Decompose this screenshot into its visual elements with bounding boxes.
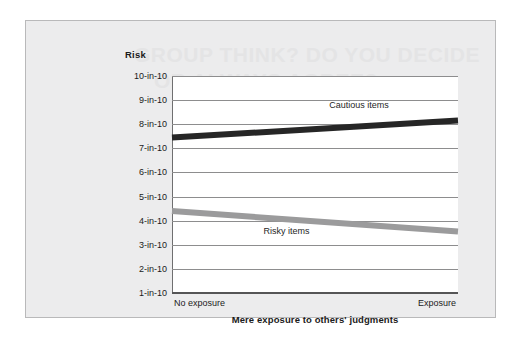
y-tick-label-3-in-10: 3-in-10 <box>139 240 167 250</box>
y-tick-label-4-in-10: 4-in-10 <box>139 216 167 226</box>
series-line-cautious-items <box>172 121 458 138</box>
y-tick-label-5-in-10: 5-in-10 <box>139 192 167 202</box>
y-tick-label-10-in-10: 10-in-10 <box>134 71 167 81</box>
series-label-cautious-items: Cautious items <box>329 100 389 110</box>
series-label-risky-items: Risky items <box>264 226 310 236</box>
chart-panel: GROUP THINK? DO YOU DECIDE OR ALWAYS AGR… <box>25 20 496 318</box>
plot-area: 1-in-102-in-103-in-104-in-105-in-106-in-… <box>172 76 458 293</box>
series-line-risky-items <box>172 211 458 231</box>
y-tick-label-7-in-10: 7-in-10 <box>139 143 167 153</box>
y-tick-label-1-in-10: 1-in-10 <box>139 288 167 298</box>
y-axis-title: Risk <box>125 49 146 60</box>
figure-canvas: GROUP THINK? DO YOU DECIDE OR ALWAYS AGR… <box>0 0 520 338</box>
series-lines <box>172 76 458 293</box>
ghost-text-line1: GROUP THINK? DO YOU DECIDE <box>134 43 480 67</box>
y-tick-label-2-in-10: 2-in-10 <box>139 264 167 274</box>
x-tick-label-right: Exposure <box>418 298 456 308</box>
x-tick-label-left: No exposure <box>174 298 225 308</box>
y-tick-label-8-in-10: 8-in-10 <box>139 119 167 129</box>
x-axis-title: Mere exposure to others' judgments <box>172 314 458 325</box>
y-tick-label-9-in-10: 9-in-10 <box>139 95 167 105</box>
y-tick-label-6-in-10: 6-in-10 <box>139 167 167 177</box>
